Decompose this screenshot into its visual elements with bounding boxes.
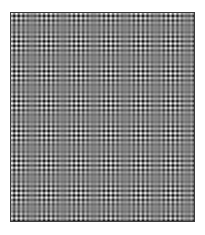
image-frame [10, 12, 195, 222]
moire-pattern-image [11, 13, 194, 221]
